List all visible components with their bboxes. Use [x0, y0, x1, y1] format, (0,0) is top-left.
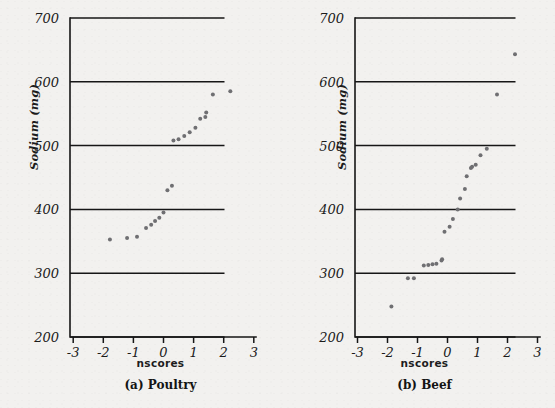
y-tick-label: 300	[319, 266, 344, 281]
beef-caption: (b) Beef	[286, 378, 555, 392]
poultry-x-axis-label: nscores	[22, 357, 299, 369]
data-point	[211, 93, 215, 97]
data-point	[153, 219, 157, 223]
figure-root: 200300400500600700 -3-2-10123 Sodium (mg…	[0, 0, 555, 408]
panel-poultry: 200300400500600700 -3-2-10123 Sodium (mg…	[0, 0, 277, 408]
data-point	[412, 276, 416, 280]
data-point	[157, 216, 161, 220]
poultry-axis-lines	[70, 18, 256, 337]
poultry-y-ticks: 200300400500600700	[33, 11, 224, 345]
y-tick-label: 700	[319, 11, 344, 26]
data-point	[144, 226, 148, 230]
data-point	[485, 147, 489, 151]
beef-data-points	[389, 52, 517, 308]
beef-axes: 200300400500600700 -3-2-10123	[318, 11, 541, 360]
data-point	[125, 236, 129, 240]
y-tick-label: 700	[34, 11, 59, 26]
data-point	[198, 117, 202, 121]
beef-scatter-plot: 200300400500600700 -3-2-10123	[278, 0, 555, 360]
poultry-caption: (a) Poultry	[22, 378, 299, 392]
beef-x-axis-label: nscores	[286, 357, 555, 369]
y-tick-label: 400	[318, 202, 344, 217]
data-point	[188, 130, 192, 134]
data-point	[204, 110, 208, 114]
y-tick-label: 200	[318, 330, 344, 345]
poultry-scatter-plot: 200300400500600700 -3-2-10123	[0, 0, 277, 360]
data-point	[465, 174, 469, 178]
poultry-y-axis-label: Sodium (mg)	[27, 67, 41, 187]
data-point	[440, 257, 444, 261]
data-point	[458, 197, 462, 201]
data-point	[182, 134, 186, 138]
data-point	[456, 207, 460, 211]
data-point	[513, 52, 517, 56]
data-point	[495, 93, 499, 97]
beef-axis-lines	[355, 18, 540, 337]
data-point	[389, 304, 393, 308]
beef-y-axis-label: Sodium (mg)	[335, 67, 349, 187]
data-point	[434, 262, 438, 266]
y-tick-label: 400	[33, 202, 59, 217]
data-point	[463, 187, 467, 191]
data-point	[426, 263, 430, 267]
data-point	[170, 184, 174, 188]
y-tick-label: 200	[33, 330, 59, 345]
data-point	[443, 230, 447, 234]
data-point	[474, 163, 478, 167]
data-point	[203, 115, 207, 119]
y-tick-label: 300	[34, 266, 59, 281]
data-point	[193, 126, 197, 130]
data-point	[431, 262, 435, 266]
data-point	[406, 276, 410, 280]
data-point	[479, 153, 483, 157]
data-point	[448, 225, 452, 229]
data-point	[108, 237, 112, 241]
data-point	[162, 211, 166, 215]
data-point	[470, 165, 474, 169]
data-point	[165, 188, 169, 192]
data-point	[228, 89, 232, 93]
poultry-data-points	[108, 89, 232, 241]
poultry-axes: 200300400500600700 -3-2-10123	[33, 11, 258, 360]
data-point	[171, 139, 175, 143]
data-point	[135, 235, 139, 239]
data-point	[177, 137, 181, 141]
data-point	[451, 217, 455, 221]
data-point	[149, 223, 153, 227]
panel-beef: 200300400500600700 -3-2-10123 Sodium (mg…	[278, 0, 555, 408]
data-point	[422, 264, 426, 268]
